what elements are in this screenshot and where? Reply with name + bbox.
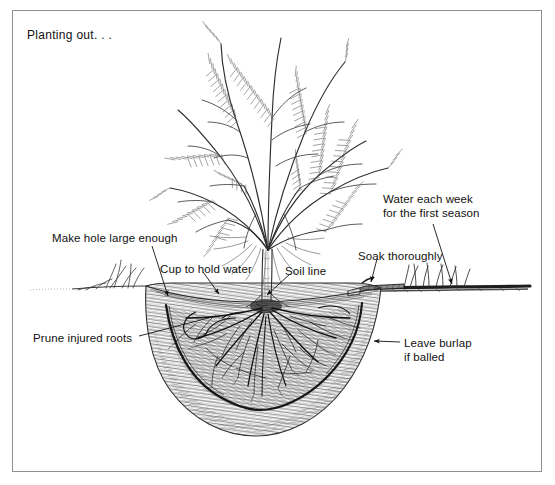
label-soil-line: Soil line — [285, 264, 326, 278]
leader-burlap — [374, 341, 400, 342]
label-cup-to-hold-water: Cup to hold water — [160, 262, 252, 276]
shrub-foliage — [150, 20, 407, 284]
grass-right — [404, 263, 470, 288]
label-make-hole-large-enough: Make hole large enough — [52, 231, 178, 245]
label-soak-thoroughly: Soak thoroughly — [358, 249, 443, 263]
grass-left — [78, 260, 144, 290]
figure-title: Planting out. . . — [27, 28, 112, 42]
label-leave-burlap-if-balled: Leave burlap if balled — [404, 336, 472, 364]
label-water-each-week: Water each week for the first season — [383, 192, 480, 220]
label-prune-injured-roots: Prune injured roots — [33, 331, 132, 345]
planting-out-figure: Planting out. . . Make hole large enough… — [0, 0, 555, 485]
